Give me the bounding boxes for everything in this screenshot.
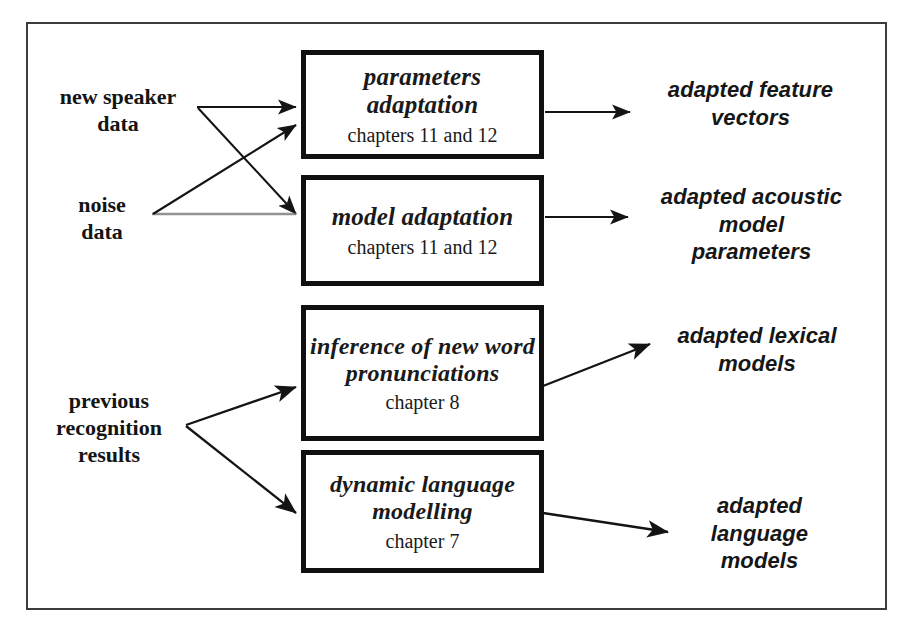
diagram-canvas: new speaker data noise data previous rec…: [0, 0, 911, 626]
output-label-adapted-lexical-models: adapted lexical models: [652, 322, 862, 377]
process-box-inference-of-new-word-pronunciations[interactable]: inference of new word pronunciations cha…: [301, 305, 544, 441]
input-label-previous-recognition-results: previous recognition results: [24, 388, 194, 468]
process-box-chapter-reference: chapters 11 and 12: [348, 124, 498, 146]
output-label-adapted-acoustic-model-parameters: adapted acoustic model parameters: [634, 183, 869, 266]
process-box-chapter-reference: chapter 7: [386, 530, 460, 552]
process-box-title: inference of new word pronunciations: [306, 333, 539, 387]
process-box-title: dynamic language modelling: [306, 471, 539, 525]
process-box-dynamic-language-modelling[interactable]: dynamic language modelling chapter 7: [301, 450, 544, 573]
process-box-model-adaptation[interactable]: model adaptation chapters 11 and 12: [301, 175, 544, 286]
output-label-adapted-feature-vectors: adapted feature vectors: [638, 76, 863, 131]
process-box-parameters-adaptation[interactable]: parameters adaptation chapters 11 and 12: [301, 50, 544, 159]
input-label-new-speaker-data: new speaker data: [38, 84, 198, 138]
process-box-chapter-reference: chapters 11 and 12: [348, 236, 498, 258]
process-box-title: model adaptation: [332, 203, 514, 231]
process-box-title: parameters adaptation: [306, 63, 539, 119]
output-label-adapted-language-models: adapted language models: [672, 492, 847, 575]
process-box-chapter-reference: chapter 8: [386, 391, 460, 413]
input-label-noise-data: noise data: [38, 192, 166, 246]
